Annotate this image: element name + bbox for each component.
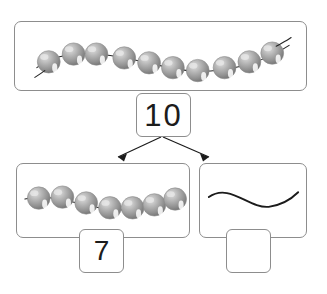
part-two-empty-string-panel <box>199 163 307 238</box>
whole-bead-string-graphic <box>15 22 306 90</box>
part-two-empty-string-graphic <box>200 164 306 237</box>
arrow-to-left-part <box>118 137 161 162</box>
arrow-to-right-part <box>163 137 209 162</box>
bead-group-part-one <box>27 186 186 219</box>
number-bond-worksheet: 10 <box>0 0 327 294</box>
part-one-bead-string-graphic <box>17 164 189 237</box>
total-number-box[interactable]: 10 <box>136 93 191 137</box>
total-number-value: 10 <box>144 100 182 131</box>
whole-bead-string-panel <box>14 21 307 91</box>
bead-group-whole <box>37 42 283 82</box>
part-two-number-box[interactable] <box>226 229 271 273</box>
part-one-bead-string-panel <box>16 163 190 238</box>
part-one-number-box[interactable]: 7 <box>79 229 124 273</box>
part-one-number-value: 7 <box>94 237 110 265</box>
